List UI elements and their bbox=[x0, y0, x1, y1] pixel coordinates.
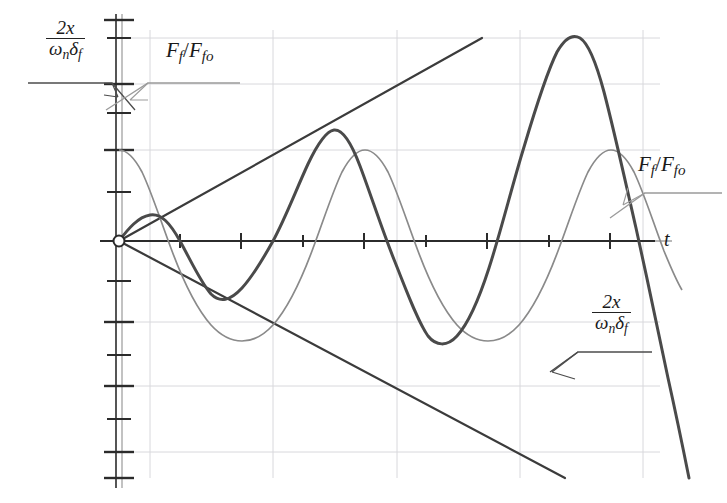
lower-envelope-line bbox=[119, 241, 565, 478]
label-top-inner-force: Ff/Ffo bbox=[166, 38, 213, 65]
label-top-left-numerator: 2x bbox=[46, 18, 85, 38]
label-bottom-right-denominator: ωnδf bbox=[592, 312, 631, 336]
figure-canvas: 2x ωnδf Ff/Ffo Ff/Ffo 2x ωnδf t bbox=[0, 0, 727, 503]
label-bottom-right-displacement: 2x ωnδf bbox=[592, 292, 631, 336]
grid-lines bbox=[119, 30, 660, 478]
label-top-left-displacement: 2x ωnδf bbox=[46, 18, 85, 62]
x-axis-label: t bbox=[664, 228, 670, 251]
label-bottom-right-numerator: 2x bbox=[592, 292, 631, 312]
leader-right bbox=[610, 188, 722, 218]
y-axis-ticks bbox=[104, 20, 134, 478]
response-curve bbox=[119, 37, 689, 478]
label-top-left-denominator: ωnδf bbox=[46, 38, 85, 62]
leader-bottom-right bbox=[550, 352, 652, 379]
leader-top-inner bbox=[106, 83, 240, 110]
label-right-force: Ff/Ffo bbox=[638, 152, 685, 179]
oscillation-plot bbox=[0, 0, 727, 503]
envelope-lines bbox=[119, 38, 565, 478]
origin-marker bbox=[114, 236, 125, 247]
upper-envelope-line bbox=[119, 38, 482, 241]
leader-top-left bbox=[28, 83, 135, 110]
